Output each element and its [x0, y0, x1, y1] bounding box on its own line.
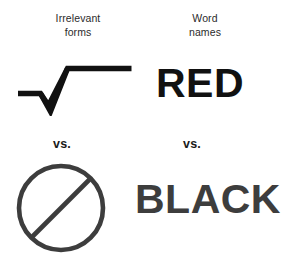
versus-label-left: vs.	[37, 137, 87, 151]
stimulus-word-red: RED	[156, 63, 244, 104]
column-heading-word-names: Word names	[155, 11, 255, 39]
column-heading-irrelevant-forms: Irrelevant forms	[28, 11, 128, 39]
radical-sign-icon	[10, 58, 136, 116]
prohibition-sign-icon	[12, 160, 112, 260]
stimulus-comparison-figure: Irrelevant forms Word names RED vs. vs. …	[0, 0, 281, 269]
versus-label-right: vs.	[167, 137, 217, 151]
stimulus-word-black: BLACK	[135, 179, 281, 220]
